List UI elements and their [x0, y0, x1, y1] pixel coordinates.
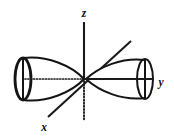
x-axis-label: x	[40, 121, 47, 133]
y-axis-label: y	[156, 76, 164, 89]
z-axis-label: z	[81, 7, 87, 19]
orbital-diagram-figure: z x y	[0, 0, 174, 140]
orbital-diagram-canvas: z x y	[0, 0, 174, 140]
